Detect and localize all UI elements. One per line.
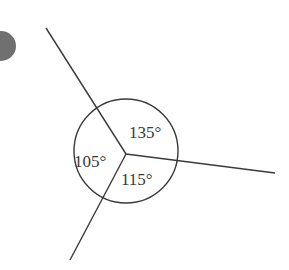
question-marker-dot	[0, 31, 16, 61]
ray-upper-left	[46, 28, 126, 154]
angle-label-105: 105°	[74, 152, 106, 171]
angle-label-135: 135°	[129, 123, 161, 142]
angle-diagram: 135° 105° 115°	[0, 0, 289, 270]
angle-label-115: 115°	[121, 170, 153, 189]
